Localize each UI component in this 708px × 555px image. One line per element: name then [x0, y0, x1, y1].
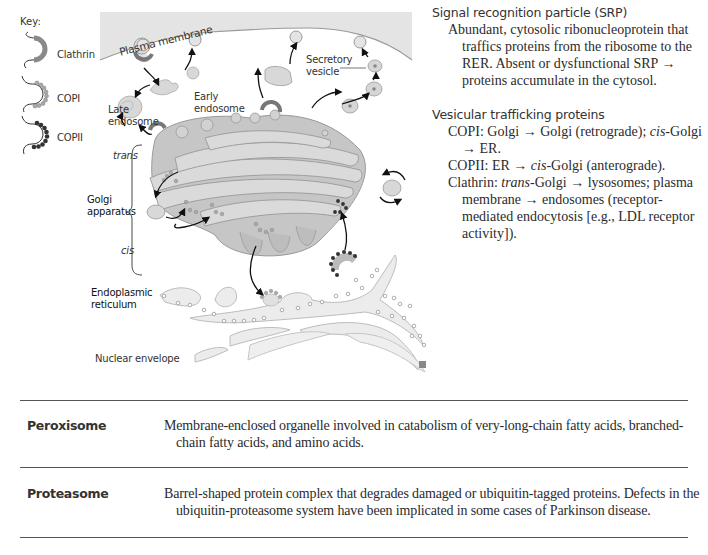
image-badge-icon	[419, 361, 426, 368]
vesicular-item-clathrin: Clathrin: trans-Golgi → lysosomes; plasm…	[448, 174, 702, 242]
srp-body: Abundant, cytosolic ribonucleoprotein th…	[432, 21, 702, 89]
table-rule	[20, 400, 688, 401]
label-secretory-vesicle-2: vesicle	[306, 66, 339, 78]
label-nuclear-envelope: Nuclear envelope	[95, 353, 179, 365]
golgi-diagram	[0, 0, 430, 395]
side-notes: Signal recognition particle (SRP) Abunda…	[432, 4, 702, 242]
label-er-2: reticulum	[91, 299, 137, 311]
srp-description: Abundant, cytosolic ribonucleoprotein th…	[448, 21, 702, 89]
table-rule	[20, 467, 688, 468]
table-rule	[20, 537, 688, 538]
label-secretory-vesicle-1: Secretory	[306, 54, 352, 66]
golgi-stack	[147, 102, 401, 256]
label-er-1: Endoplasmic	[91, 287, 152, 299]
vesicular-item-copii: COPII: ER → cis-Golgi (anterograde).	[448, 157, 702, 174]
label-late-endosome-1: Late	[108, 104, 129, 116]
vesicular-item-copi: COPI: Golgi → Golgi (retrograde); cis-Go…	[448, 123, 702, 157]
endoplasmic-reticulum	[160, 255, 423, 370]
label-early-endosome-1: Early	[194, 91, 218, 103]
vesicular-heading: Vesicular trafficking proteins	[432, 106, 702, 123]
label-cis: cis	[121, 245, 134, 257]
label-late-endosome-2: endosome	[108, 116, 159, 128]
label-trans: trans	[113, 150, 138, 162]
trafficking-figure: Key: Clathrin COPI COPII	[0, 0, 430, 395]
label-golgi-2: apparatus	[87, 206, 136, 218]
row-term-peroxisome: Peroxisome	[27, 418, 106, 433]
row-term-proteasome: Proteasome	[27, 486, 108, 501]
label-golgi-1: Golgi	[87, 194, 112, 206]
vesicular-body: COPI: Golgi → Golgi (retrograde); cis-Go…	[432, 123, 702, 242]
label-early-endosome-2: endosome	[194, 103, 245, 115]
row-def-peroxisome: Membrane-enclosed organelle involved in …	[164, 417, 701, 451]
srp-heading: Signal recognition particle (SRP)	[432, 4, 702, 21]
row-def-proteasome: Barrel-shaped protein complex that degra…	[164, 485, 701, 519]
